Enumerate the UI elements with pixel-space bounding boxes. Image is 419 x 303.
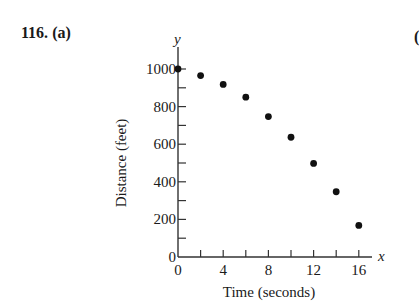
y-tick-label: 0 [169,249,177,265]
y-tick-label: 200 [154,211,177,227]
y-tick-label: 400 [154,174,177,190]
x-tick-label: 12 [306,262,321,278]
x-tick-label: 4 [219,262,227,278]
y-tick-label: 800 [154,99,177,115]
data-point [197,72,204,79]
data-point [265,113,272,120]
data-point [242,94,249,101]
x-tick-label: 16 [351,262,367,278]
x-axis-variable: x [377,248,385,264]
scatter-chart: 048121602004006008001000xyTime (seconds)… [0,0,419,303]
data-point [310,160,317,167]
y-axis-variable: y [172,31,181,47]
y-tick-label: 600 [154,136,177,152]
data-point [288,134,295,141]
data-point [175,66,182,73]
x-tick-label: 8 [265,262,273,278]
data-point [355,222,362,229]
x-axis-title: Time (seconds) [223,284,315,301]
data-point [333,188,340,195]
y-tick-label: 1000 [146,61,176,77]
y-axis-title: Distance (feet) [113,119,130,208]
data-point [220,81,227,88]
